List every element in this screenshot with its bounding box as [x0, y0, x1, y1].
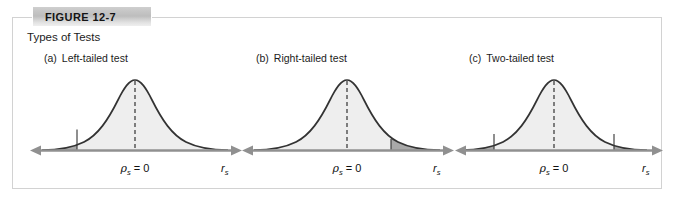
plot-area-two-tailed: [453, 68, 668, 165]
center-value-label-a: ρs = 0: [121, 162, 150, 177]
figure-number-tab: FIGURE 12-7: [33, 7, 151, 26]
figure-subtitle: Types of Tests: [27, 31, 100, 43]
rho-equals-b: = 0: [343, 162, 362, 174]
panel-caption-b: (b)Right-tailed test: [256, 52, 347, 64]
axis-arrow-left-a: [30, 146, 41, 156]
panel-title-b: Right-tailed test: [274, 52, 347, 64]
axis-variable-label-c: rs: [642, 162, 649, 177]
rho-equals-a: = 0: [131, 162, 150, 174]
panel-left-tailed: (a)Left-tailed test: [28, 52, 243, 187]
axis-var-sub-b: s: [437, 168, 441, 177]
panel-caption-a: (a)Left-tailed test: [44, 52, 128, 64]
axis-arrow-left-b: [242, 146, 253, 156]
plot-area-left-tailed: [28, 68, 243, 165]
panel-two-tailed: (c)Two-tailed test: [453, 52, 668, 187]
figure-container: FIGURE 12-7 Types of Tests (a)Left-taile…: [0, 0, 684, 208]
panel-title-a: Left-tailed test: [62, 52, 128, 64]
axis-arrow-left-c: [455, 146, 466, 156]
plot-area-right-tailed: [240, 68, 455, 165]
center-value-label-b: ρs = 0: [333, 162, 362, 177]
panel-right-tailed: (b)Right-tailed test: [240, 52, 455, 187]
panel-letter-a: (a): [44, 52, 57, 64]
figure-number-label: FIGURE 12-7: [45, 11, 116, 23]
panel-caption-c: (c)Two-tailed test: [469, 52, 554, 64]
axis-variable-label-a: rs: [221, 162, 228, 177]
axis-variable-label-b: rs: [433, 162, 440, 177]
panels-row: (a)Left-tailed test: [12, 52, 662, 187]
axis-var-sub-a: s: [225, 168, 229, 177]
panel-letter-b: (b): [256, 52, 269, 64]
panel-letter-c: (c): [469, 52, 481, 64]
center-value-label-c: ρs = 0: [540, 162, 569, 177]
axis-arrow-right-c: [652, 146, 663, 156]
axis-var-sub-c: s: [646, 168, 650, 177]
rho-equals-c: = 0: [550, 162, 569, 174]
panel-title-c: Two-tailed test: [486, 52, 554, 64]
